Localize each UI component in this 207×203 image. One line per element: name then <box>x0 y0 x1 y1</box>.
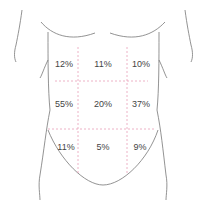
region-middle-center-label: 20% <box>94 99 112 109</box>
region-upper-right-label: 10% <box>132 59 150 69</box>
region-lower-right-label: 9% <box>133 142 146 152</box>
region-lower-center-label: 5% <box>96 142 109 152</box>
region-lower-left-label: 11% <box>57 142 74 152</box>
region-upper-left-label: 12% <box>55 59 73 69</box>
region-upper-center-label: 11% <box>94 59 111 69</box>
region-middle-right-label: 37% <box>132 99 150 109</box>
region-middle-left-label: 55% <box>55 99 73 109</box>
